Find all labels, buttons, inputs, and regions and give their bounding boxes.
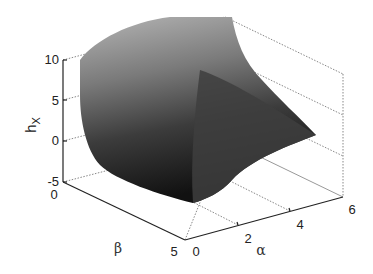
surface-plot: 10 5 0 -5 0 5 0 2 4 6 α β hX xyxy=(0,0,373,274)
beta-axis-label: β xyxy=(114,240,122,256)
alpha-tick-4: 4 xyxy=(296,217,303,232)
svg-text:hX: hX xyxy=(22,117,42,133)
alpha-axis-label: α xyxy=(256,242,266,258)
z-tick-5: 5 xyxy=(52,93,59,108)
z-tick-0: 0 xyxy=(52,133,59,148)
alpha-tick-0: 0 xyxy=(192,244,199,259)
beta-tick-5: 5 xyxy=(170,244,177,259)
alpha-axis xyxy=(185,197,343,240)
alpha-tick-6: 6 xyxy=(348,202,355,217)
alpha-tick-2: 2 xyxy=(244,231,251,246)
beta-tick-0: 0 xyxy=(50,187,57,202)
z-axis-label: hX xyxy=(22,117,42,133)
z-tick-10: 10 xyxy=(45,52,59,67)
